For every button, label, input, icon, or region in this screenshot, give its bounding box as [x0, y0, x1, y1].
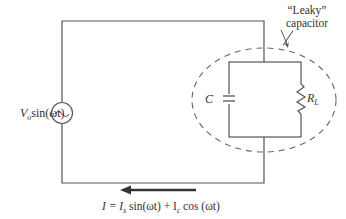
source-label: Vosin(ωt)	[20, 107, 65, 122]
source-label-rest: sin(ωt)	[31, 106, 64, 120]
leaky-capacitor-annotation: “Leaky” capacitor	[282, 4, 332, 30]
current-eq-suffix: cos (ωt)	[180, 200, 220, 212]
current-eq-mid: sin(ωt) + I	[126, 200, 177, 212]
current-equation: I = Is sin(ωt) + Ic cos (ωt)	[102, 201, 220, 215]
annotation-arrow-icon	[281, 30, 295, 48]
resistor-label: RL	[307, 92, 319, 107]
resistor-label-sub: L	[314, 98, 318, 107]
annotation-line2: capacitor	[282, 17, 332, 30]
current-direction-arrow-icon	[120, 186, 196, 195]
capacitor-label: C	[205, 93, 213, 105]
annotation-line1: “Leaky”	[282, 4, 332, 17]
wire-left-bottom	[62, 124, 264, 183]
parallel-block	[229, 62, 301, 137]
resistor-icon	[297, 84, 305, 114]
current-eq-prefix: I = I	[102, 200, 123, 212]
capacitor-icon	[223, 94, 235, 104]
